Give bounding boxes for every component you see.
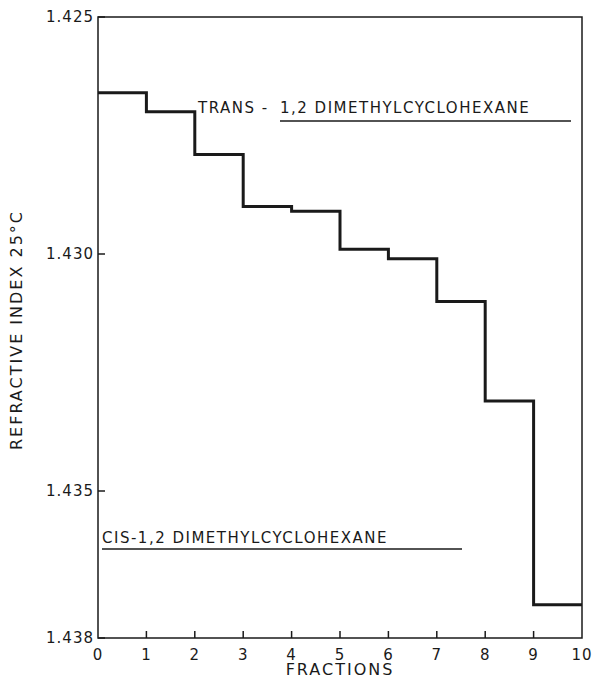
x-tick-label: 10 — [571, 646, 592, 664]
y-tick-label: 1.438 — [46, 629, 94, 647]
x-tick-label: 3 — [238, 646, 249, 664]
x-tick-label: 8 — [480, 646, 491, 664]
x-tick-label: 2 — [190, 646, 201, 664]
cis-annotation: CIS-1,2 DIMETHYLCYCLOHEXANE — [102, 529, 462, 549]
cis-name-label: CIS-1,2 DIMETHYLCYCLOHEXANE — [102, 529, 388, 547]
step-series-line — [98, 93, 582, 605]
x-tick-label: 0 — [93, 646, 104, 664]
y-tick-label: 1.425 — [46, 8, 94, 26]
trans-prefix-label: TRANS - — [197, 99, 269, 117]
y-tick-label: 1.435 — [46, 482, 94, 500]
refractive-index-step-chart: 1.4251.4301.4351.438 012345678910 FRACTI… — [0, 0, 597, 697]
x-tick-label: 7 — [432, 646, 443, 664]
x-tick-label: 1 — [141, 646, 152, 664]
y-tick-label: 1.430 — [46, 245, 94, 263]
y-axis: 1.4251.4301.4351.438 — [46, 8, 105, 647]
y-axis-title: REFRACTIVE INDEX 25°C — [7, 210, 26, 450]
trans-name-label: 1,2 DIMETHYLCYCLOHEXANE — [280, 99, 530, 117]
x-tick-label: 9 — [528, 646, 539, 664]
trans-annotation: TRANS - 1,2 DIMETHYLCYCLOHEXANE — [197, 99, 571, 121]
x-axis-title: FRACTIONS — [286, 660, 395, 679]
